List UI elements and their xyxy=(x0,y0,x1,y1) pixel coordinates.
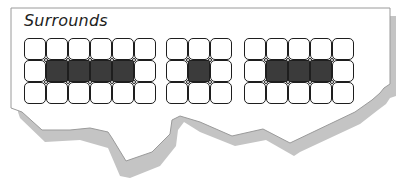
grid-cell-filled xyxy=(46,60,68,82)
grid-cell-filled xyxy=(112,60,134,82)
vertex-dot-icon xyxy=(186,58,190,62)
grid-cell-empty xyxy=(210,82,232,104)
grid-six-by-three xyxy=(24,38,156,104)
vertex-dot-icon xyxy=(88,80,92,84)
grid-cell-empty xyxy=(90,38,112,60)
grid-three-by-three xyxy=(166,38,232,104)
grid-cell-filled xyxy=(310,60,332,82)
grid-cell-filled xyxy=(188,60,210,82)
grid-cell-empty xyxy=(166,60,188,82)
grid-cell-empty xyxy=(188,82,210,104)
vertex-dot-icon xyxy=(110,58,114,62)
vertex-dot-icon xyxy=(330,58,334,62)
vertex-dot-icon xyxy=(44,58,48,62)
grid-cell-filled xyxy=(288,60,310,82)
grid-cell-empty xyxy=(244,38,266,60)
diagram-title: Surrounds xyxy=(24,11,108,30)
grid-cell-empty xyxy=(266,82,288,104)
grid-cell-empty xyxy=(310,38,332,60)
grid-cell-empty xyxy=(288,38,310,60)
grid-cell-empty xyxy=(112,38,134,60)
vertex-dot-icon xyxy=(132,80,136,84)
vertex-dot-icon xyxy=(286,58,290,62)
vertex-dot-icon xyxy=(66,58,70,62)
grid-cell-empty xyxy=(68,38,90,60)
vertex-dot-icon xyxy=(186,80,190,84)
grid-cell-empty xyxy=(188,38,210,60)
grid-five-by-three xyxy=(244,38,354,104)
vertex-dot-icon xyxy=(66,80,70,84)
grid-cell-filled xyxy=(266,60,288,82)
grid-cell-filled xyxy=(90,60,112,82)
vertex-dot-icon xyxy=(132,58,136,62)
vertex-dot-icon xyxy=(286,80,290,84)
vertex-dot-icon xyxy=(110,80,114,84)
vertex-dot-icon xyxy=(88,58,92,62)
vertex-dot-icon xyxy=(44,80,48,84)
vertex-dot-icon xyxy=(208,58,212,62)
grid-cell-empty xyxy=(46,38,68,60)
grid-cell-empty xyxy=(46,82,68,104)
vertex-dot-icon xyxy=(264,58,268,62)
grid-cell-empty xyxy=(24,60,46,82)
grid-cell-empty xyxy=(68,82,90,104)
grid-cell-empty xyxy=(24,82,46,104)
grid-cell-empty xyxy=(244,60,266,82)
grid-cell-empty xyxy=(24,38,46,60)
grid-cell-empty xyxy=(244,82,266,104)
grid-cell-empty xyxy=(332,82,354,104)
grid-cell-empty xyxy=(288,82,310,104)
grid-cell-empty xyxy=(166,82,188,104)
grid-cell-empty xyxy=(166,38,188,60)
grid-cell-empty xyxy=(210,60,232,82)
grid-cell-empty xyxy=(310,82,332,104)
vertex-dot-icon xyxy=(264,80,268,84)
grid-cell-empty xyxy=(90,82,112,104)
grid-cell-empty xyxy=(210,38,232,60)
grid-cell-empty xyxy=(112,82,134,104)
grid-cell-empty xyxy=(332,38,354,60)
grid-cell-empty xyxy=(332,60,354,82)
grid-cell-empty xyxy=(134,82,156,104)
grid-cell-empty xyxy=(134,60,156,82)
grid-cell-filled xyxy=(68,60,90,82)
vertex-dot-icon xyxy=(208,80,212,84)
grid-cell-empty xyxy=(266,38,288,60)
vertex-dot-icon xyxy=(330,80,334,84)
vertex-dot-icon xyxy=(308,80,312,84)
grid-cell-empty xyxy=(134,38,156,60)
vertex-dot-icon xyxy=(308,58,312,62)
